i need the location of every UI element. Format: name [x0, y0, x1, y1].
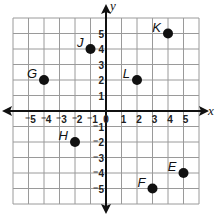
x-tick-label: 4: [167, 114, 173, 125]
x-tick-label: 2: [136, 114, 142, 125]
x-tick-label: 3: [152, 114, 158, 125]
y-tick-label: 4: [98, 44, 104, 55]
y-tick-label: ⁻3: [93, 153, 104, 164]
x-tick-label: 0: [103, 114, 109, 125]
y-tick-label: ⁻1: [93, 122, 104, 133]
point-marker: [148, 184, 158, 194]
y-axis-label: y: [108, 0, 116, 13]
point-j: J: [76, 35, 96, 54]
point-marker: [70, 137, 80, 147]
data-points: GJKLHFE: [27, 20, 189, 194]
x-tick-label: 1: [121, 114, 127, 125]
y-tick-label: 5: [98, 29, 104, 40]
point-label: L: [123, 66, 130, 81]
y-tick-label: ⁻5: [93, 184, 104, 195]
point-l: L: [123, 66, 142, 85]
point-label: J: [76, 35, 84, 50]
point-label: G: [27, 66, 37, 81]
point-marker: [179, 168, 189, 178]
x-axis-label: x: [207, 103, 214, 118]
point-f: F: [138, 175, 158, 194]
y-tick-label: ⁻4: [93, 168, 104, 179]
point-marker: [163, 29, 173, 39]
point-marker: [86, 44, 96, 54]
point-label: F: [138, 175, 147, 190]
x-tick-label: ⁻2: [72, 114, 83, 125]
axes: xy: [2, 0, 214, 214]
x-tick-label: ⁻4: [41, 114, 52, 125]
point-marker: [39, 75, 49, 85]
point-h: H: [59, 128, 80, 147]
point-label: H: [59, 128, 69, 143]
point-marker: [132, 75, 142, 85]
y-tick-label: 3: [98, 60, 104, 71]
y-tick-label: 1: [98, 91, 104, 102]
x-tick-label: ⁻3: [56, 114, 67, 125]
point-e: E: [168, 159, 189, 178]
point-label: K: [152, 20, 162, 35]
y-tick-label: ⁻2: [93, 137, 104, 148]
y-tick-label: 2: [98, 75, 104, 86]
point-k: K: [152, 20, 173, 39]
point-label: E: [168, 159, 177, 174]
coordinate-plane: xy ⁻5⁻4⁻3⁻2⁻101234554321⁻1⁻2⁻3⁻4⁻5 GJKLH…: [0, 0, 215, 216]
x-tick-label: 5: [183, 114, 189, 125]
x-tick-label: ⁻5: [25, 114, 36, 125]
point-g: G: [27, 66, 49, 85]
